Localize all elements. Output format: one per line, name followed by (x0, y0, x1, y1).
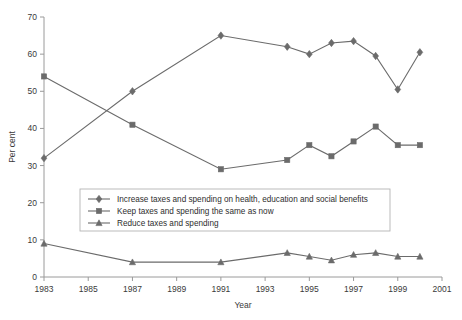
data-point-diamond-icon (329, 39, 335, 46)
y-tick-label: 10 (28, 235, 38, 245)
data-point-square-icon (373, 124, 378, 129)
y-tick-label: 30 (28, 161, 38, 171)
y-tick-label: 20 (28, 198, 38, 208)
plot-area: 010203040506070Per cent19831985198719891… (7, 12, 452, 310)
x-tick-label: 1987 (123, 284, 142, 294)
legend-label-2: Keep taxes and spending the same as now (117, 207, 274, 216)
x-tick-label: 2001 (433, 284, 452, 294)
series-line-2 (44, 76, 420, 169)
x-tick-label: 1991 (211, 284, 230, 294)
x-tick-label: 1997 (344, 284, 363, 294)
x-tick-label: 1985 (79, 284, 98, 294)
data-point-square-icon (307, 143, 312, 148)
x-tick-label: 1989 (167, 284, 186, 294)
data-point-square-icon (329, 154, 334, 159)
legend: Increase taxes and spending on health, e… (80, 189, 390, 231)
data-point-square-icon (41, 74, 46, 79)
series-1 (41, 32, 423, 162)
x-tick-label: 1983 (35, 284, 54, 294)
x-tick-label: 1999 (388, 284, 407, 294)
data-point-square-icon (218, 167, 223, 172)
x-axis-title: Year (234, 300, 251, 310)
data-point-diamond-icon (284, 43, 290, 50)
y-tick-label: 60 (28, 49, 38, 59)
line-chart: 010203040506070Per cent19831985198719891… (0, 0, 462, 320)
legend-marker-square-icon (96, 208, 101, 213)
y-tick-label: 40 (28, 123, 38, 133)
y-tick-label: 0 (32, 272, 37, 282)
y-tick-label: 50 (28, 86, 38, 96)
data-point-square-icon (351, 139, 356, 144)
legend-label-3: Reduce taxes and spending (117, 219, 219, 228)
x-tick-label: 1995 (300, 284, 319, 294)
legend-label-1: Increase taxes and spending on health, e… (117, 195, 368, 204)
data-point-square-icon (417, 143, 422, 148)
data-point-triangle-icon (284, 250, 290, 256)
series-2 (41, 74, 422, 172)
y-axis-title: Per cent (7, 131, 17, 163)
data-point-square-icon (395, 143, 400, 148)
series-3 (41, 240, 423, 264)
y-tick-label: 70 (28, 12, 38, 22)
series-line-1 (44, 36, 420, 159)
data-point-square-icon (130, 122, 135, 127)
data-point-diamond-icon (306, 50, 312, 57)
x-tick-label: 1993 (256, 284, 275, 294)
data-point-diamond-icon (130, 88, 136, 95)
chart-canvas: 010203040506070Per cent19831985198719891… (0, 0, 462, 320)
data-point-diamond-icon (218, 32, 224, 39)
data-point-diamond-icon (351, 37, 357, 44)
data-point-diamond-icon (41, 154, 47, 161)
series-line-3 (44, 244, 420, 263)
data-point-square-icon (285, 157, 290, 162)
data-point-triangle-icon (41, 240, 47, 246)
